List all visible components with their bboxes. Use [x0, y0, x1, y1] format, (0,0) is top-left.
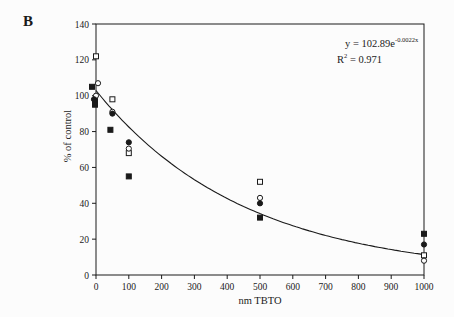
data-point-open-square	[110, 97, 115, 102]
data-point-filled-circle	[126, 140, 131, 145]
y-tick-label: 100	[75, 91, 90, 101]
y-axis-label: % of control	[62, 110, 73, 163]
data-point-filled-square	[90, 84, 95, 89]
x-tick-label: 900	[384, 282, 399, 292]
fit-curve	[96, 91, 424, 255]
y-tick-label: 40	[80, 199, 90, 209]
x-tick-label: 1000	[415, 282, 434, 292]
y-tick-label: 80	[80, 127, 90, 137]
y-tick-label: 0	[84, 271, 89, 281]
data-point-open-circle	[95, 81, 100, 86]
fit-r-squared: R2 = 0.971	[337, 50, 418, 66]
figure-panel-b: B 01002003004005006007008009001000020406…	[0, 0, 454, 317]
data-point-filled-square	[422, 231, 427, 236]
y-tick-label: 140	[75, 20, 90, 30]
data-point-filled-square	[108, 127, 113, 132]
x-tick-label: 200	[154, 282, 169, 292]
data-point-open-square	[422, 253, 427, 258]
fit-equation-exponent: -0.0022x	[395, 36, 418, 43]
y-tick-label: 60	[80, 163, 90, 173]
data-point-open-circle	[421, 258, 426, 263]
data-point-filled-square	[93, 102, 98, 107]
data-point-open-square	[258, 179, 263, 184]
data-point-filled-square	[126, 174, 131, 179]
r-squared-value: = 0.971	[347, 53, 382, 64]
y-tick-label: 120	[75, 55, 90, 65]
data-point-filled-circle	[110, 111, 115, 116]
data-point-filled-circle	[421, 242, 426, 247]
x-tick-label: 100	[122, 282, 137, 292]
x-tick-label: 800	[351, 282, 366, 292]
x-tick-label: 400	[220, 282, 235, 292]
x-tick-label: 600	[286, 282, 301, 292]
data-point-open-circle	[126, 146, 131, 151]
fit-equation-base: y = 102.89e	[345, 38, 395, 49]
fit-equation: y = 102.89e-0.0022x	[345, 34, 418, 50]
x-axis-label: nm TBTO	[238, 295, 281, 306]
x-tick-label: 500	[253, 282, 268, 292]
data-point-filled-square	[258, 215, 263, 220]
fit-annotation: y = 102.89e-0.0022x R2 = 0.971	[337, 34, 418, 65]
data-point-open-square	[94, 54, 99, 59]
x-tick-label: 0	[94, 282, 99, 292]
x-tick-label: 700	[318, 282, 333, 292]
y-tick-label: 20	[80, 235, 90, 245]
r-squared-base: R	[337, 53, 344, 64]
data-point-open-circle	[257, 195, 262, 200]
x-tick-label: 300	[187, 282, 202, 292]
data-point-filled-circle	[257, 201, 262, 206]
